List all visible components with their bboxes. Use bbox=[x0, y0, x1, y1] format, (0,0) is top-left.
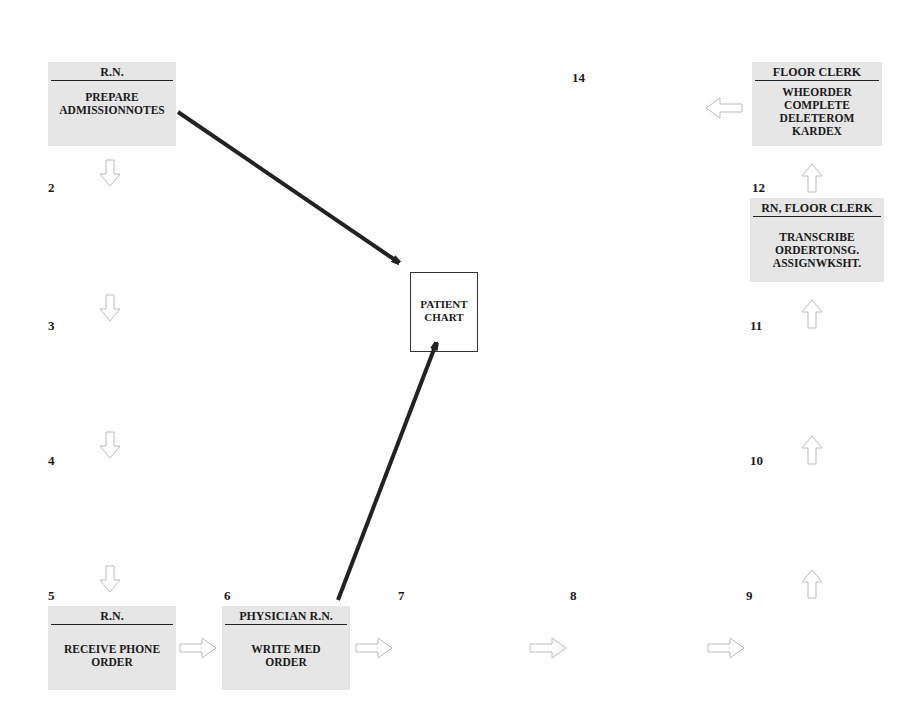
arrow-down-1-2 bbox=[100, 160, 120, 186]
arrow-down-2-3 bbox=[100, 295, 120, 321]
arrow-up-12-13 bbox=[802, 164, 822, 192]
arrow-up-9-10 bbox=[802, 570, 822, 598]
arrow-up-11-12 bbox=[802, 300, 822, 328]
arrow-left-13-14 bbox=[706, 98, 742, 118]
connector-step1-to-chart bbox=[178, 112, 398, 262]
arrow-right-7-8 bbox=[530, 638, 566, 658]
arrow-right-5-6 bbox=[180, 638, 216, 658]
arrow-up-10-11 bbox=[802, 436, 822, 464]
flow-arrows bbox=[0, 0, 924, 722]
arrow-down-4-5 bbox=[100, 566, 120, 592]
arrow-right-8-9 bbox=[708, 638, 744, 658]
arrow-down-3-4 bbox=[100, 432, 120, 458]
connector-step6-to-chart bbox=[338, 344, 436, 600]
arrow-right-6-7 bbox=[356, 638, 392, 658]
